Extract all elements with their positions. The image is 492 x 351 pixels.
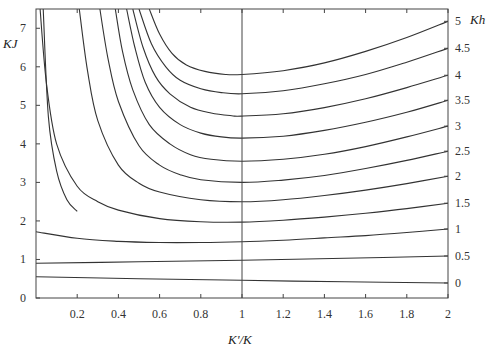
x-tick-label: 1.2 (276, 307, 291, 321)
x-tick-label: 0.8 (193, 307, 208, 321)
y-tick-label: 0 (20, 291, 26, 305)
y2-tick-label: 1.5 (455, 196, 470, 210)
x-tick-label: 0.6 (152, 307, 167, 321)
y-tick-label: 7 (20, 21, 26, 35)
x-tick-label: 1.8 (399, 307, 414, 321)
curve-kh-4 (133, 9, 448, 116)
y2-tick-label: 3 (455, 119, 461, 133)
x-tick-label: 0.4 (111, 307, 126, 321)
y-tick-label: 3 (20, 175, 26, 189)
y2-tick-label: 1 (455, 222, 461, 236)
y-tick-label: 5 (20, 98, 26, 112)
y2-tick-label: 4.5 (455, 41, 470, 55)
y-axis-ticks: 01234567 (20, 21, 40, 305)
y2-tick-label: 0.5 (455, 249, 470, 263)
y2-axis-label: Kh (469, 12, 485, 27)
y-tick-label: 4 (20, 137, 26, 151)
x-tick-label: 1.6 (358, 307, 373, 321)
y-tick-label: 2 (20, 214, 26, 228)
y-axis-label: KJ (2, 36, 19, 51)
x-tick-label: 1 (239, 307, 245, 321)
y2-tick-label: 2 (455, 169, 461, 183)
x-axis-label: K'/K (227, 332, 253, 347)
curve-kh-4-5 (139, 9, 448, 94)
curve-kh-3-5 (127, 9, 448, 138)
curve-kh-left-1 (43, 9, 77, 211)
curve-kh-3 (115, 9, 448, 161)
y2-tick-label: 0 (455, 276, 461, 290)
y2-tick-label: 5 (455, 14, 461, 28)
x-axis-ticks: 0.20.40.60.811.21.41.61.82 (70, 9, 451, 321)
x-tick-label: 1.4 (317, 307, 332, 321)
x-tick-label: 0.2 (70, 307, 85, 321)
y-tick-label: 1 (20, 252, 26, 266)
y2-tick-label: 4 (455, 68, 461, 82)
y2-tick-label: 2.5 (455, 144, 470, 158)
y2-tick-label: 3.5 (455, 93, 470, 107)
curve-kh-2 (79, 9, 448, 202)
x-tick-label: 2 (445, 307, 451, 321)
chart-canvas: 0.20.40.60.811.21.41.61.82 01234567 00.5… (0, 0, 492, 351)
y-tick-label: 6 (20, 60, 26, 74)
curve-kh-5 (149, 9, 448, 75)
